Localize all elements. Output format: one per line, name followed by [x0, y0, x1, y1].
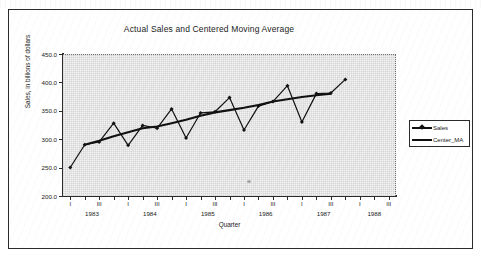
x-tick-mark — [99, 197, 100, 200]
plot-svg — [63, 55, 396, 197]
y-tick-label: 300.0 — [13, 136, 57, 143]
line-marker-icon — [412, 123, 432, 133]
x-tick-label-quarter: III — [379, 201, 399, 207]
x-tick-mark — [85, 197, 86, 200]
x-tick-label-quarter: I — [118, 201, 138, 207]
x-axis-label: Quarter — [63, 221, 396, 228]
scan-smudge — [247, 180, 251, 183]
x-tick-mark — [186, 197, 187, 200]
x-tick-mark — [230, 197, 231, 200]
x-tick-mark — [345, 197, 346, 200]
x-tick-mark — [143, 197, 144, 200]
x-tick-mark — [201, 197, 202, 200]
chart-legend: Sales Center_MA — [409, 120, 470, 147]
line-icon — [412, 135, 432, 145]
x-tick-mark — [172, 197, 173, 200]
x-tick-mark — [287, 197, 288, 200]
x-tick-label-quarter: III — [89, 201, 109, 207]
x-tick-label-quarter: III — [263, 201, 283, 207]
x-tick-label-quarter: I — [292, 201, 312, 207]
legend-item-center-ma: Center_MA — [412, 134, 463, 146]
x-tick-label-quarter: I — [350, 201, 370, 207]
x-tick-label-year: 1983 — [75, 210, 109, 217]
x-tick-mark — [70, 197, 71, 200]
y-tick-label: 200.0 — [13, 193, 57, 200]
chart-frame: Actual Sales and Centered Moving Average… — [8, 9, 473, 249]
y-tick-label: 450.0 — [13, 51, 57, 58]
x-tick-mark — [302, 197, 303, 200]
y-tick-label: 350.0 — [13, 107, 57, 114]
series-line-sales — [70, 79, 345, 167]
x-tick-label-year: 1988 — [357, 210, 391, 217]
x-tick-mark — [114, 197, 115, 200]
y-axis-label: Sales, in billions of dollars — [24, 7, 31, 137]
x-tick-mark — [316, 197, 317, 200]
x-tick-mark — [157, 197, 158, 200]
x-tick-mark — [244, 197, 245, 200]
x-tick-label-quarter: I — [176, 201, 196, 207]
x-tick-label-quarter: I — [60, 201, 80, 207]
x-tick-mark — [374, 197, 375, 200]
chart-title: Actual Sales and Centered Moving Average — [9, 24, 409, 34]
x-tick-mark — [128, 197, 129, 200]
x-tick-label-quarter: III — [147, 201, 167, 207]
scan-artifact-top — [0, 0, 481, 8]
x-tick-label-quarter: I — [234, 201, 254, 207]
x-tick-mark — [389, 197, 390, 200]
plot-area — [63, 54, 396, 196]
x-tick-label-year: 1984 — [133, 210, 167, 217]
screenshot-root: Actual Sales and Centered Moving Average… — [0, 0, 481, 260]
x-tick-label-year: 1985 — [191, 210, 225, 217]
x-tick-mark — [215, 197, 216, 200]
x-tick-label-quarter: III — [321, 201, 341, 207]
y-tick-label: 250.0 — [13, 164, 57, 171]
legend-item-sales: Sales — [412, 122, 448, 134]
y-tick-label: 400.0 — [13, 79, 57, 86]
x-tick-mark — [331, 197, 332, 200]
data-point-marker — [300, 120, 304, 124]
x-tick-label-year: 1986 — [249, 210, 283, 217]
x-tick-label-year: 1987 — [307, 210, 341, 217]
x-tick-mark — [360, 197, 361, 200]
x-tick-mark — [258, 197, 259, 200]
legend-label-sales: Sales — [432, 125, 448, 131]
x-tick-mark — [273, 197, 274, 200]
legend-label-center-ma: Center_MA — [432, 137, 463, 143]
x-tick-label-quarter: III — [205, 201, 225, 207]
